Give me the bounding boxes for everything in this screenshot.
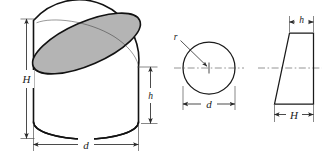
radius-label-r: r xyxy=(174,32,178,42)
top-view-group: r d xyxy=(174,32,244,111)
side-view-group: h H xyxy=(258,12,322,122)
dimension-label-H-side: H xyxy=(289,109,299,121)
figure-canvas: H h d xyxy=(0,0,328,160)
technical-diagram: H h d xyxy=(0,0,328,160)
dimension-H-side-view: H xyxy=(275,105,314,122)
dimension-label-h-side: h xyxy=(299,15,304,25)
cylinder-cut-face xyxy=(25,1,149,87)
dimension-d-pictorial: d xyxy=(34,124,139,152)
dimension-label-d: d xyxy=(83,139,89,151)
dimension-H-pictorial: H xyxy=(19,19,35,139)
dimension-h-pictorial: h xyxy=(138,67,158,124)
dimension-label-d-circle: d xyxy=(206,98,212,110)
dimension-label-h: h xyxy=(148,91,153,101)
dimension-d-top-view: d xyxy=(183,86,235,111)
leader-line-r xyxy=(181,41,208,67)
dimension-label-H: H xyxy=(22,73,32,85)
dimension-h-side-view: h xyxy=(290,12,314,32)
pictorial-cylinder-group: H h d xyxy=(19,0,158,152)
side-view-trapezoid xyxy=(275,33,314,104)
